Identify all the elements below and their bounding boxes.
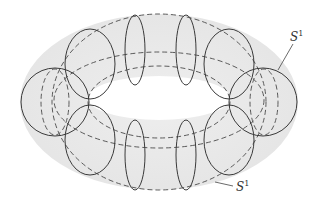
label-sup: 1 [244, 179, 249, 188]
torus-diagram [0, 0, 316, 205]
label-meridian-s1: S1 [290, 30, 303, 43]
torus-surface [20, 14, 298, 190]
leader-line-longitude [215, 182, 233, 186]
label-sup: 1 [298, 29, 303, 38]
label-text: S [290, 30, 298, 44]
label-longitude-s1: S1 [236, 180, 249, 193]
label-text: S [236, 180, 244, 194]
